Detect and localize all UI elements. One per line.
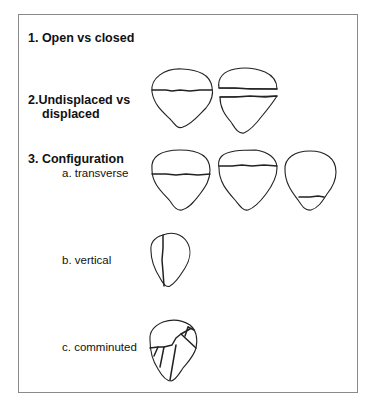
patella-figures [0, 0, 373, 408]
figure-transverse-lower-pole [285, 151, 336, 210]
figure-transverse-upper [219, 150, 277, 210]
figure-undisplaced-transverse [152, 69, 213, 128]
figure-vertical [151, 233, 190, 286]
figure-displaced-transverse [219, 68, 277, 133]
figure-transverse-mid [152, 150, 210, 210]
figure-comminuted [150, 320, 197, 381]
